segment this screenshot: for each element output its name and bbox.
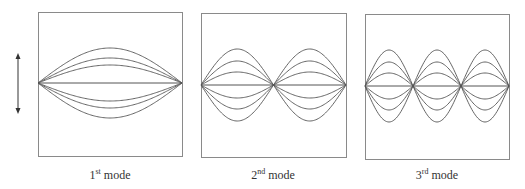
mode-panel-2 [201, 14, 347, 158]
mode-panel-3 [365, 15, 510, 160]
label-mode-1: 1st mode [89, 168, 130, 183]
mode-panels [38, 13, 510, 160]
double-arrow-icon [16, 53, 21, 114]
label-mode-2: 2nd mode [251, 168, 295, 183]
label-mode-3: 3rd mode [416, 168, 458, 183]
mode-panel-1 [38, 13, 183, 157]
mode-diagram [0, 0, 525, 189]
